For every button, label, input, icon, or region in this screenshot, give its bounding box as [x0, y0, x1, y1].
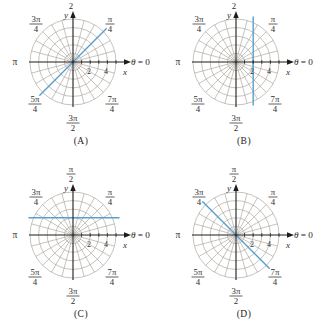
x-tick-label-2: 2 — [250, 240, 254, 249]
angle-label-7pi-4-denominator: 4 — [110, 277, 115, 287]
y-axis-label: y — [226, 183, 231, 193]
x-axis-label: x — [285, 67, 290, 77]
angle-label-pi-4-denominator: 4 — [108, 24, 113, 34]
angle-label-7pi-4-numerator: 7π — [271, 267, 280, 277]
polar-grid-svg: 3π4π45π47π43π2π2πθ = 0xy24 — [0, 150, 162, 330]
y-axis-arrowhead-icon — [70, 184, 75, 191]
angle-label-pi-2-partial: 2 — [232, 1, 236, 11]
polar-grid-svg: 3π4π45π47π43π22πθ = 0xy24 — [0, 0, 162, 150]
angle-label-3pi-2-numerator: 3π — [69, 113, 78, 123]
polar-grid-svg: 3π4π45π47π43π22πθ = 0xy24 — [163, 0, 325, 150]
x-axis-arrowhead-icon — [287, 59, 294, 64]
angle-label-3pi-4-denominator: 4 — [34, 24, 39, 34]
x-tick-label-2: 2 — [87, 67, 91, 76]
y-axis-label: y — [226, 10, 231, 20]
y-axis-arrowhead-icon — [233, 11, 238, 18]
angle-label-7pi-4-denominator: 4 — [110, 104, 115, 114]
angle-label-3pi-4-denominator: 4 — [197, 24, 202, 34]
angle-label-pi-2-numerator: π — [232, 164, 237, 174]
angle-label-pi: π — [13, 230, 18, 240]
angle-label-3pi-4-denominator: 4 — [197, 197, 202, 207]
y-axis-arrowhead-icon — [233, 184, 238, 191]
x-tick-label-2: 2 — [250, 67, 254, 76]
angle-label-3pi-4-numerator: 3π — [195, 14, 204, 24]
x-axis-label: x — [285, 240, 290, 250]
polar-axis-label-theta-0: θ = 0 — [131, 57, 150, 67]
angle-label-7pi-4-denominator: 4 — [273, 277, 278, 287]
angle-label-5pi-4-numerator: 5π — [31, 267, 40, 277]
x-tick-label-4: 4 — [104, 240, 108, 249]
polar-plots-figure: 3π4π45π47π43π22πθ = 0xy24 (A) 3π4π45π47π… — [0, 0, 325, 330]
angle-label-5pi-4-numerator: 5π — [194, 267, 203, 277]
panel-caption: (D) — [163, 309, 325, 319]
x-axis-arrowhead-icon — [287, 232, 294, 237]
angle-label-pi-4-numerator: π — [108, 187, 113, 197]
angle-label-7pi-4-numerator: 7π — [271, 94, 280, 104]
polar-axis-label-theta-0: θ = 0 — [131, 230, 150, 240]
angle-label-3pi-2-denominator: 2 — [234, 123, 238, 133]
angle-label-3pi-4-numerator: 3π — [32, 14, 41, 24]
x-tick-label-2: 2 — [87, 240, 91, 249]
panel-caption: (C) — [0, 309, 162, 319]
angle-label-pi: π — [176, 230, 181, 240]
angle-label-5pi-4-numerator: 5π — [194, 94, 203, 104]
y-axis-label: y — [63, 10, 68, 20]
angle-label-pi: π — [176, 57, 181, 67]
x-axis-label: x — [122, 240, 127, 250]
polar-axis-label-theta-0: θ = 0 — [294, 57, 313, 67]
y-axis-label: y — [63, 183, 68, 193]
x-tick-label-4: 4 — [267, 67, 271, 76]
angle-label-5pi-4-denominator: 4 — [196, 104, 201, 114]
angle-label-3pi-2-denominator: 2 — [71, 296, 75, 306]
angle-label-3pi-2-denominator: 2 — [234, 296, 238, 306]
angle-label-3pi-2-numerator: 3π — [232, 286, 241, 296]
angle-label-3pi-4-denominator: 4 — [34, 197, 39, 207]
angle-label-pi-2-denominator: 2 — [232, 174, 236, 184]
polar-plot-c: 3π4π45π47π43π2π2πθ = 0xy24 (C) — [0, 150, 162, 330]
angle-label-pi-4-numerator: π — [271, 14, 276, 24]
polar-plot-b: 3π4π45π47π43π22πθ = 0xy24 (B) — [163, 0, 325, 150]
x-tick-label-4: 4 — [104, 67, 108, 76]
angle-label-3pi-2-numerator: 3π — [232, 113, 241, 123]
angle-label-pi-2-numerator: π — [69, 164, 74, 174]
panel-caption: (A) — [0, 136, 162, 146]
angle-label-pi-2-denominator: 2 — [69, 174, 73, 184]
panel-caption: (B) — [163, 136, 325, 146]
angle-label-pi-4-denominator: 4 — [108, 197, 113, 207]
angle-label-pi-4-denominator: 4 — [271, 24, 276, 34]
angle-label-7pi-4-numerator: 7π — [108, 267, 117, 277]
angle-label-7pi-4-numerator: 7π — [108, 94, 117, 104]
angle-label-7pi-4-denominator: 4 — [273, 104, 278, 114]
angle-label-3pi-4-numerator: 3π — [195, 187, 204, 197]
polar-plot-a: 3π4π45π47π43π22πθ = 0xy24 (A) — [0, 0, 162, 150]
x-axis-label: x — [122, 67, 127, 77]
angle-label-pi: π — [13, 57, 18, 67]
angle-label-5pi-4-denominator: 4 — [33, 277, 38, 287]
angle-label-3pi-2-numerator: 3π — [69, 286, 78, 296]
x-axis-arrowhead-icon — [124, 59, 131, 64]
polar-plot-d: 3π4π45π47π43π2π2πθ = 0xy24 (D) — [163, 150, 325, 330]
angle-label-5pi-4-denominator: 4 — [196, 277, 201, 287]
angle-label-pi-4-numerator: π — [271, 187, 276, 197]
angle-label-pi-2-partial: 2 — [69, 1, 73, 11]
x-axis-arrowhead-icon — [124, 232, 131, 237]
polar-grid-svg: 3π4π45π47π43π2π2πθ = 0xy24 — [163, 150, 325, 330]
x-tick-label-4: 4 — [267, 240, 271, 249]
polar-axis-label-theta-0: θ = 0 — [294, 230, 313, 240]
angle-label-3pi-4-numerator: 3π — [32, 187, 41, 197]
angle-label-5pi-4-denominator: 4 — [33, 104, 38, 114]
angle-label-5pi-4-numerator: 5π — [31, 94, 40, 104]
angle-label-pi-4-numerator: π — [108, 14, 113, 24]
y-axis-arrowhead-icon — [70, 11, 75, 18]
angle-label-3pi-2-denominator: 2 — [71, 123, 75, 133]
angle-label-pi-4-denominator: 4 — [271, 197, 276, 207]
